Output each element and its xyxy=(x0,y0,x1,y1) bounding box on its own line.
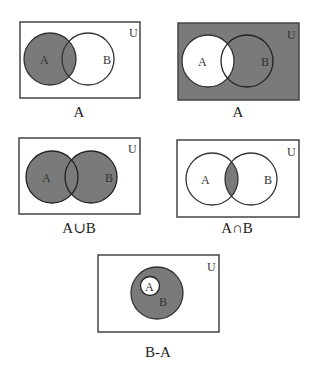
venn-diagram-a-complement: A B U xyxy=(177,22,300,101)
set-b-label: B xyxy=(261,55,269,69)
set-b-label: B xyxy=(264,173,272,187)
venn-panel-intersection: A B U xyxy=(176,139,300,218)
venn-panel-a: A B U xyxy=(19,21,141,99)
caption-union: A∪B xyxy=(39,219,119,237)
set-a-label: A xyxy=(42,171,51,185)
venn-diagram-union: A B U xyxy=(18,137,141,215)
universe-label: U xyxy=(287,145,296,159)
caption-a-complement: A xyxy=(198,104,278,121)
universe-label: U xyxy=(129,26,138,40)
caption-difference: B-A xyxy=(118,344,198,361)
venn-diagram-a: A B U xyxy=(19,21,141,99)
caption-intersection: A∩B xyxy=(197,220,277,237)
set-a-label: A xyxy=(201,173,210,187)
set-a-label: A xyxy=(40,53,49,67)
venn-panel-a-complement: A B U xyxy=(177,22,300,101)
universe-label: U xyxy=(128,142,137,156)
complement-bar xyxy=(233,105,242,106)
venn-diagram-intersection: A B U xyxy=(176,139,300,218)
caption-a: A xyxy=(39,104,119,121)
venn-panel-difference: A B U xyxy=(97,254,220,333)
set-b-label: B xyxy=(159,295,167,309)
universe-label: U xyxy=(207,260,216,274)
venn-panel-union: A B U xyxy=(18,137,141,215)
set-b-label: B xyxy=(105,171,113,185)
venn-diagram-difference: A B U xyxy=(97,254,220,333)
set-a-label: A xyxy=(198,55,207,69)
set-a-label: A xyxy=(145,280,154,294)
set-b-label: B xyxy=(103,53,111,67)
universe-label: U xyxy=(287,28,296,42)
